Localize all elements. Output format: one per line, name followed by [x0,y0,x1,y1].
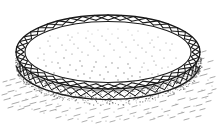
disc-illustration [0,0,217,132]
illustration-canvas: Circular stitched disc on stippled groun… [0,0,217,132]
